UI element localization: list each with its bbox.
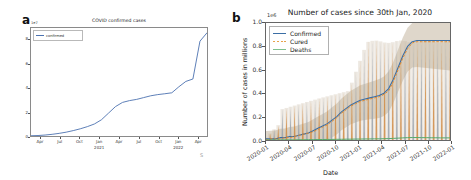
- panel-a-x-tick-mark: [60, 137, 61, 139]
- panel-a-curve: [31, 28, 207, 136]
- panel-a-y-tick: 6: [20, 62, 28, 66]
- panel-b-y-tick-mark: [262, 93, 265, 94]
- panel-b-y-tick: 1.0: [246, 19, 262, 25]
- panel-b-y-tick-mark: [262, 46, 265, 47]
- panel-a-x-tick: Oct: [69, 140, 89, 144]
- panel-b: b Number of cases since 30th Jan, 2020 1…: [228, 0, 471, 180]
- panel-a-x-tick-mark: [159, 137, 160, 139]
- panel-a-label: a: [22, 14, 30, 26]
- footer-mark: S: [200, 152, 203, 158]
- panel-a-y-tick: 8: [20, 37, 28, 41]
- panel-b-y-axis-label: Number of cases in millions: [242, 38, 248, 126]
- panel-b-x-axis-label: Date: [323, 170, 338, 176]
- panel-a-y-tick-mark: [28, 113, 30, 114]
- panel-a-x-tick: Oct: [149, 140, 169, 144]
- panel-b-x-tick-mark: [358, 141, 359, 144]
- panel-b-x-tick-mark: [312, 141, 313, 144]
- panel-a-x-tick-year: 2022: [168, 146, 188, 150]
- panel-a-x-tick: Jan: [168, 140, 188, 144]
- panel-a-x-tick: Apr: [188, 140, 208, 144]
- panel-b-label: b: [232, 12, 241, 24]
- panel-a-plot-frame: [30, 27, 208, 137]
- legend-swatch-cured: [273, 41, 286, 42]
- panel-b-y-tick: 0.6: [246, 67, 262, 73]
- panel-a-legend: confirmed: [33, 30, 83, 41]
- panel-b-y-tick-mark: [262, 70, 265, 71]
- legend-line-confirmed: [36, 35, 44, 36]
- panel-a-x-tick: Apr: [109, 140, 129, 144]
- panel-a-x-tick-mark: [198, 137, 199, 139]
- panel-b-x-tick-mark: [451, 141, 452, 144]
- panel-a-y-tick-mark: [28, 64, 30, 65]
- panel-b-y-tick: 0.0: [246, 138, 262, 144]
- panel-a-x-tick: Apr: [30, 140, 50, 144]
- legend-label-confirmed: confirmed: [46, 34, 64, 38]
- legend-label-confirmed: Confirmed: [290, 30, 321, 37]
- panel-a-x-tick-mark: [40, 137, 41, 139]
- panel-b-x-tick-mark: [381, 141, 382, 144]
- panel-a-y-tick: 4: [20, 86, 28, 90]
- panel-a-title: COVID confirmed cases: [30, 19, 208, 24]
- panel-b-legend: Confirmed Cured Deaths: [269, 26, 329, 55]
- panel-a-x-tick: Jul: [50, 140, 70, 144]
- panel-b-y-tick: 0.2: [246, 114, 262, 120]
- panel-a-y-tick-mark: [28, 39, 30, 40]
- legend-swatch-deaths: [273, 49, 286, 50]
- panel-b-x-tick-mark: [288, 141, 289, 144]
- panel-a-x-tick-mark: [79, 137, 80, 139]
- panel-b-y-tick-mark: [262, 22, 265, 23]
- panel-a-y-tick-mark: [28, 88, 30, 89]
- panel-b-x-tick-mark: [405, 141, 406, 144]
- panel-a-x-tick-year: 2021: [89, 146, 109, 150]
- panel-a-x-tick-mark: [139, 137, 140, 139]
- figure-container: a COVID confirmed cases 1e7 confirmed 02…: [0, 0, 471, 180]
- panel-b-x-tick-mark: [428, 141, 429, 144]
- panel-b-x-tick-mark: [265, 141, 266, 144]
- legend-label-deaths: Deaths: [290, 46, 311, 53]
- panel-a-y-tick: 0: [20, 135, 28, 139]
- panel-b-title: Number of cases since 30th Jan, 2020: [265, 9, 455, 17]
- panel-a-x-tick: Jul: [129, 140, 149, 144]
- panel-a: a COVID confirmed cases 1e7 confirmed 02…: [0, 0, 228, 180]
- panel-b-y-tick: 0.8: [246, 43, 262, 49]
- panel-a-x-tick: Jan: [89, 140, 109, 144]
- panel-a-y-tick: 2: [20, 111, 28, 115]
- panel-a-x-tick-mark: [119, 137, 120, 139]
- panel-a-y-tick-mark: [28, 137, 30, 138]
- legend-swatch-confirmed: [273, 33, 286, 34]
- legend-label-cured: Cured: [290, 38, 308, 45]
- panel-a-x-tick-mark: [178, 137, 179, 139]
- panel-a-y-offset: 1e7: [31, 22, 38, 26]
- panel-b-x-tick-mark: [335, 141, 336, 144]
- panel-a-x-tick-mark: [99, 137, 100, 139]
- panel-b-y-tick-mark: [262, 117, 265, 118]
- panel-b-y-offset: 1e6: [267, 13, 276, 18]
- panel-b-y-tick: 0.4: [246, 90, 262, 96]
